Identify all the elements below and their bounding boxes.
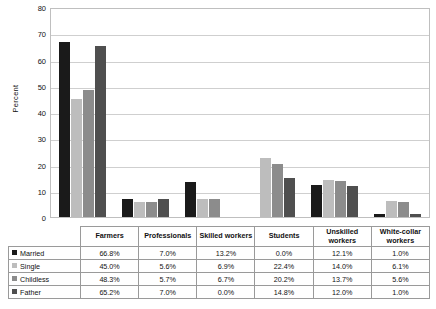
y-axis-tick-60: 60 <box>24 56 46 65</box>
legend-swatch-icon <box>12 250 17 255</box>
bar <box>209 199 220 217</box>
table-cell-value: 13.7% <box>313 273 371 286</box>
bar-groups <box>51 9 429 217</box>
legend-series-label: Married <box>20 249 44 258</box>
table-cell-value: 14.8% <box>255 286 313 299</box>
table-cell-value: 14.0% <box>313 260 371 273</box>
bar <box>185 182 196 217</box>
table-cell-value: 5.6% <box>371 273 429 286</box>
bar <box>398 202 409 217</box>
bar <box>83 90 94 217</box>
bar <box>347 186 358 218</box>
table-cell-value: 6.9% <box>197 260 255 273</box>
table-cell-value: 48.3% <box>81 273 139 286</box>
column-header: Unskilled workers <box>313 227 371 247</box>
legend-series-father: Father <box>9 286 81 299</box>
y-axis-tick-labels: 80706050403020100 <box>24 8 46 218</box>
y-axis-label: Percent <box>11 64 20 134</box>
legend-series-label: Childless <box>20 275 49 284</box>
table-cell-value: 7.0% <box>139 286 197 299</box>
table-cell-value: 20.2% <box>255 273 313 286</box>
legend-series-single: Single <box>9 260 81 273</box>
y-axis-tick-10: 10 <box>24 187 46 196</box>
bar <box>311 185 322 217</box>
bar <box>71 99 82 217</box>
y-axis-tick-0: 0 <box>24 214 46 223</box>
bar-group <box>114 9 177 217</box>
bar-chart-with-data-table: Percent 80706050403020100 FarmersProfess… <box>0 0 436 309</box>
column-header: Farmers <box>81 227 139 247</box>
legend-series-label: Single <box>20 262 40 271</box>
bar <box>59 42 70 217</box>
data-table: FarmersProfessionalsSkilled workersStude… <box>8 226 430 299</box>
table-row: Single45.0%5.6%6.9%22.4%14.0%6.1% <box>9 260 430 273</box>
column-header: Professionals <box>139 227 197 247</box>
table-cell-value: 45.0% <box>81 260 139 273</box>
legend-series-married: Married <box>9 247 81 260</box>
y-axis-tick-80: 80 <box>24 4 46 13</box>
table-cell-value: 6.1% <box>371 260 429 273</box>
y-axis-tick-50: 50 <box>24 82 46 91</box>
table-cell-value: 5.7% <box>139 273 197 286</box>
bar-group <box>303 9 366 217</box>
column-header: Students <box>255 227 313 247</box>
bar <box>122 199 133 217</box>
bar <box>158 199 169 217</box>
table-header-row: FarmersProfessionalsSkilled workersStude… <box>9 227 430 247</box>
legend-series-childless: Childless <box>9 273 81 286</box>
table-cell-value: 13.2% <box>197 247 255 260</box>
bar <box>272 164 283 217</box>
table-cell-value: 6.7% <box>197 273 255 286</box>
bar-group <box>366 9 429 217</box>
bar <box>134 202 145 217</box>
bar <box>197 199 208 217</box>
y-axis-tick-40: 40 <box>24 109 46 118</box>
table-cell-value: 0.0% <box>197 286 255 299</box>
y-axis-tick-30: 30 <box>24 135 46 144</box>
column-header: Skilled workers <box>197 227 255 247</box>
table-cell-value: 22.4% <box>255 260 313 273</box>
bar <box>335 181 346 217</box>
table-row: Childless48.3%5.7%6.7%20.2%13.7%5.6% <box>9 273 430 286</box>
bar <box>95 46 106 217</box>
table-cell-value: 1.0% <box>371 247 429 260</box>
plot-area-wrapper: Percent 80706050403020100 <box>0 8 436 226</box>
table-cell-value: 66.8% <box>81 247 139 260</box>
bar-group <box>240 9 303 217</box>
legend-swatch-icon <box>12 289 17 294</box>
table-cell-value: 1.0% <box>371 286 429 299</box>
legend-series-label: Father <box>20 288 41 297</box>
table-cell-value: 12.1% <box>313 247 371 260</box>
bar <box>146 202 157 217</box>
table-cell-value: 12.0% <box>313 286 371 299</box>
bar <box>374 214 385 217</box>
table-corner-cell <box>9 227 81 247</box>
y-axis-tick-20: 20 <box>24 161 46 170</box>
bar-group <box>51 9 114 217</box>
table-row: Married66.8%7.0%13.2%0.0%12.1%1.0% <box>9 247 430 260</box>
table-cell-value: 65.2% <box>81 286 139 299</box>
legend-swatch-icon <box>12 276 17 281</box>
plot-area <box>50 8 430 218</box>
legend-swatch-icon <box>12 263 17 268</box>
column-header: White-collar workers <box>371 227 429 247</box>
table-cell-value: 5.6% <box>139 260 197 273</box>
y-axis-tick-70: 70 <box>24 30 46 39</box>
bar <box>410 214 421 217</box>
table-cell-value: 7.0% <box>139 247 197 260</box>
bar <box>323 180 334 217</box>
bar-group <box>177 9 240 217</box>
bar <box>284 178 295 217</box>
bar <box>260 158 271 217</box>
table-cell-value: 0.0% <box>255 247 313 260</box>
table-row: Father65.2%7.0%0.0%14.8%12.0%1.0% <box>9 286 430 299</box>
bar <box>386 201 397 217</box>
